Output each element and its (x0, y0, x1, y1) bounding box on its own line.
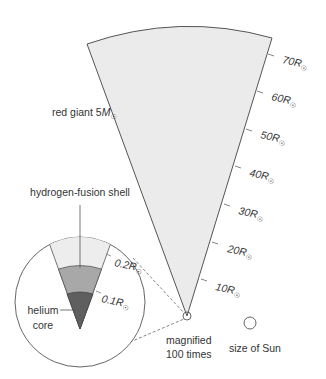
tick-label-10r: 10R☉ (214, 280, 242, 299)
hydrogen-fusion-shell-label: hydrogen-fusion shell (30, 186, 130, 198)
helium-core-label-line1: helium (28, 304, 59, 316)
red-giant-diagram: 10R☉ 20R☉ 30R☉ 40R☉ 50R☉ 60R☉ 70R☉ red g… (0, 0, 326, 379)
sun-size-circle (244, 317, 256, 329)
sun-size-label: size of Sun (229, 342, 281, 354)
tick-label-30r: 30R☉ (237, 204, 265, 223)
tick-label-70r: 70R☉ (281, 53, 309, 72)
tick-label-60r: 60R☉ (270, 90, 298, 109)
magnified-label-line2: 100 times (166, 348, 212, 360)
helium-core-label-line2: core (33, 319, 54, 331)
tick-label-50r: 50R☉ (259, 128, 287, 147)
magnified-label-line1: magnified (166, 334, 212, 346)
red-giant-label: red giant 5M☉ (52, 106, 117, 120)
tick-label-40r: 40R☉ (248, 166, 276, 185)
tick-label-20r: 20R☉ (225, 242, 254, 261)
